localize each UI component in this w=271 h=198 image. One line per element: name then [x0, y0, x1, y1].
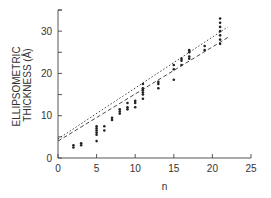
- data-point: [219, 43, 222, 46]
- x-tick-label: 25: [245, 163, 257, 174]
- data-points: [72, 17, 221, 149]
- y-axis-title-line-1: ELLIPSOMETRIC: [11, 46, 22, 126]
- data-point: [142, 83, 145, 86]
- data-point: [134, 106, 137, 109]
- data-point: [103, 125, 106, 128]
- y-tick-label: 30: [41, 26, 53, 37]
- data-point: [142, 98, 145, 101]
- x-tick-label: 5: [94, 163, 100, 174]
- data-point: [157, 87, 160, 90]
- data-point: [173, 78, 176, 81]
- y-tick-label: 0: [46, 153, 52, 164]
- data-point: [188, 49, 191, 52]
- data-point: [188, 55, 191, 58]
- data-point: [203, 45, 206, 48]
- data-point: [180, 64, 183, 67]
- data-point: [219, 26, 222, 29]
- data-point: [126, 106, 129, 109]
- data-point: [126, 102, 129, 105]
- data-point: [72, 144, 75, 147]
- data-point: [118, 108, 121, 111]
- data-point: [103, 129, 106, 132]
- data-point: [157, 81, 160, 84]
- x-axis-title: n: [162, 181, 168, 192]
- axes: 05101520250102030: [41, 10, 257, 174]
- x-tick-label: 10: [130, 163, 142, 174]
- y-tick-label: 10: [41, 110, 53, 121]
- data-point: [95, 125, 98, 128]
- data-point: [111, 117, 114, 120]
- x-tick-label: 15: [168, 163, 180, 174]
- data-point: [142, 87, 145, 90]
- data-point: [80, 142, 83, 145]
- data-point: [173, 68, 176, 71]
- chart: 05101520250102030 n ELLIPSOMETRIC THICKN…: [0, 0, 271, 198]
- x-tick-label: 20: [207, 163, 219, 174]
- data-point: [180, 57, 183, 60]
- y-tick-label: 20: [41, 68, 53, 79]
- data-point: [95, 140, 98, 143]
- data-point: [203, 49, 206, 52]
- data-point: [219, 34, 222, 37]
- y-axis-title-line-2: THICKNESS (Å): [21, 48, 33, 121]
- y-axis-title: ELLIPSOMETRIC THICKNESS (Å): [11, 44, 33, 127]
- data-point: [219, 17, 222, 20]
- data-point: [134, 100, 137, 103]
- data-point: [173, 64, 176, 67]
- data-point: [219, 30, 222, 33]
- data-point: [219, 38, 222, 41]
- data-point: [219, 21, 222, 24]
- x-tick-label: 0: [55, 163, 61, 174]
